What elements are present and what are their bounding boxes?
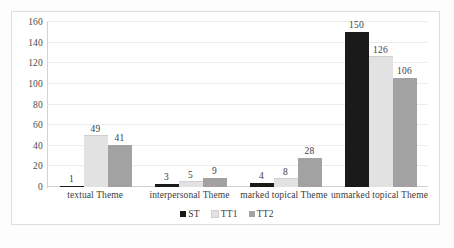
- legend-entry-tt1[interactable]: TT1: [211, 209, 238, 219]
- bar-tt2[interactable]: [298, 158, 322, 187]
- bar-group: 4828: [238, 22, 333, 187]
- bar-value-label: 126: [373, 45, 388, 55]
- bar-chart-figure: 160140120100806040200 149413594828150126…: [0, 0, 454, 248]
- bar-column: 1: [60, 22, 84, 187]
- y-axis-tick-label: 40: [33, 141, 43, 151]
- y-axis-tick-labels: 160140120100806040200: [13, 22, 43, 187]
- bar-column: 4: [250, 22, 274, 187]
- y-axis-tick-label: 140: [28, 38, 43, 48]
- y-axis-tick-label: 160: [28, 17, 43, 27]
- bar-value-label: 1: [69, 174, 74, 184]
- legend-label: TT2: [257, 209, 274, 219]
- bar-st[interactable]: [250, 183, 274, 187]
- bar-value-label: 106: [397, 66, 412, 76]
- legend-swatch-icon: [249, 211, 255, 217]
- bar-tt1[interactable]: [274, 178, 298, 187]
- bar-tt2[interactable]: [108, 145, 132, 187]
- legend-swatch-icon: [180, 211, 186, 217]
- x-axis-category-labels: textual Themeinterpersonal Thememarked t…: [48, 190, 428, 200]
- bar-tt2[interactable]: [393, 78, 417, 187]
- bar-value-label: 49: [91, 124, 101, 134]
- bar-value-label: 8: [283, 167, 288, 177]
- y-axis-tick-label: 20: [33, 161, 43, 171]
- bar-column: 106: [393, 22, 417, 187]
- bar-value-label: 150: [349, 20, 364, 30]
- x-axis-category-label: interpersonal Theme: [142, 190, 236, 200]
- bar-column: 3: [155, 22, 179, 187]
- bar-value-label: 41: [115, 133, 125, 143]
- chart-legend: STTT1TT2: [0, 209, 454, 219]
- bar-column: 9: [203, 22, 227, 187]
- bar-column: 150: [345, 22, 369, 187]
- x-axis-category-label: marked topical Theme: [237, 190, 331, 200]
- bar-st[interactable]: [60, 186, 84, 188]
- bar-value-label: 28: [305, 146, 315, 156]
- bar-tt1[interactable]: [84, 135, 108, 187]
- x-axis-category-label: textual Theme: [48, 190, 142, 200]
- legend-entry-tt2[interactable]: TT2: [249, 209, 274, 219]
- bar-group: 14941: [48, 22, 143, 187]
- y-axis-tick-label: 60: [33, 120, 43, 130]
- bar-value-label: 9: [212, 166, 217, 176]
- x-axis-category-label: unmarked topical Theme: [331, 190, 428, 200]
- bar-column: 8: [274, 22, 298, 187]
- bar-tt2[interactable]: [203, 178, 227, 187]
- y-axis-tick-label: 100: [28, 79, 43, 89]
- bar-st[interactable]: [155, 184, 179, 187]
- bar-tt1[interactable]: [179, 181, 203, 187]
- bar-column: 126: [369, 22, 393, 187]
- y-axis-tick-label: 80: [33, 100, 43, 110]
- bar-column: 5: [179, 22, 203, 187]
- legend-swatch-icon: [211, 210, 219, 218]
- bar-column: 41: [108, 22, 132, 187]
- y-axis-tick-label: 0: [38, 182, 43, 192]
- y-axis-tick-label: 120: [28, 58, 43, 68]
- legend-entry-st[interactable]: ST: [180, 209, 200, 219]
- legend-label: ST: [188, 209, 200, 219]
- bar-st[interactable]: [345, 32, 369, 187]
- bar-groups: 149413594828150126106: [48, 22, 428, 187]
- legend-label: TT1: [221, 209, 238, 219]
- bar-column: 28: [298, 22, 322, 187]
- bar-value-label: 5: [188, 170, 193, 180]
- bar-column: 49: [84, 22, 108, 187]
- bar-group: 150126106: [333, 22, 428, 187]
- bar-tt1[interactable]: [369, 56, 393, 187]
- bar-value-label: 3: [164, 172, 169, 182]
- bar-value-label: 4: [259, 171, 264, 181]
- bar-group: 359: [143, 22, 238, 187]
